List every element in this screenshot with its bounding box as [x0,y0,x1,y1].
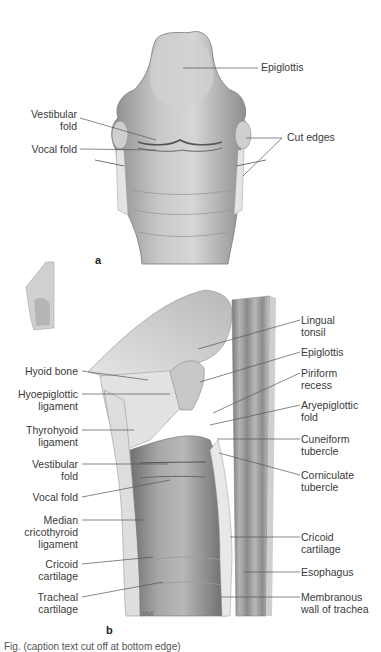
label-piriform-recess: Piriform recess [301,367,337,391]
artist-signature: Voll [142,608,153,620]
label-thyrohyoid-ligament: Thyrohyoid ligament [4,424,78,448]
label-hyoid-bone: Hyoid bone [4,365,78,377]
label-vestibular-fold-b: Vestibular fold [4,458,78,482]
label-cut-edges: Cut edges [287,131,335,143]
label-membranous-wall-of-trachea: Membranous wall of trachea [301,591,369,615]
label-aryepiglottic-fold: Aryepiglottic fold [301,399,358,423]
label-vestibular-fold-a: Vestibular fold [20,108,77,132]
label-epiglottis-a: Epiglottis [261,61,304,73]
label-epiglottis-b: Epiglottis [301,346,344,358]
label-median-cricothyroid-ligament: Median cricothyroid ligament [4,514,78,550]
inset-thumbnail [26,262,54,330]
label-esophagus: Esophagus [301,566,354,578]
label-tracheal-cartilage: Tracheal cartilage [4,591,78,615]
label-hyoepiglottic-ligament: Hyoepiglottic ligament [4,388,78,412]
label-vocal-fold-a: Vocal fold [20,143,77,155]
label-vocal-fold-b: Vocal fold [4,491,78,503]
panel-a-art [95,32,266,264]
label-corniculate-tubercle: Corniculate tubercle [301,469,354,493]
panel-a-letter: a [95,254,101,266]
label-cuneiform-tubercle: Cuneiform tubercle [301,433,349,457]
label-lingual-tonsil: Lingual tonsil [301,314,335,338]
label-cricoid-cartilage-right: Cricoid cartilage [301,531,341,555]
panel-b-letter: b [106,624,113,636]
label-cricoid-cartilage-left: Cricoid cartilage [4,558,78,582]
figure-caption-clipped: Fig. (caption text cut off at bottom edg… [4,641,181,652]
panel-b-art [88,290,276,616]
